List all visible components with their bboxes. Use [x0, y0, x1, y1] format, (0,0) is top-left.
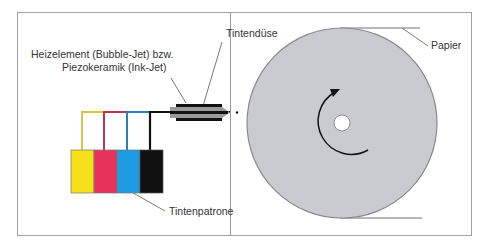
- frame-left: [18, 13, 231, 236]
- ink-droplet: [236, 111, 238, 113]
- cartridge-yellow: [71, 150, 94, 193]
- piezo-top: [176, 104, 222, 107]
- tube-cyan: [127, 112, 150, 150]
- heater-label-line2: Piezokeramik (Ink-Jet): [62, 61, 166, 74]
- heater-label-line1: Heizelement (Bubble-Jet) bzw.: [31, 48, 173, 61]
- nozzle-label: Tintendüse: [226, 27, 278, 40]
- tube-yellow: [82, 112, 104, 150]
- paper-label: Papier: [431, 39, 461, 52]
- tube-magenta: [104, 112, 127, 150]
- cartridge-label: Tintenpatrone: [169, 205, 233, 218]
- cartridge-black: [140, 150, 163, 193]
- piezo-bottom: [176, 118, 222, 121]
- heater-leader: [171, 78, 186, 103]
- cartridge-magenta: [94, 150, 117, 193]
- cartridge-cyan: [117, 150, 140, 193]
- drum-axle: [334, 115, 350, 131]
- paper-leader: [402, 28, 428, 46]
- nozzle-leader: [203, 42, 222, 106]
- ink-channel: [170, 111, 228, 114]
